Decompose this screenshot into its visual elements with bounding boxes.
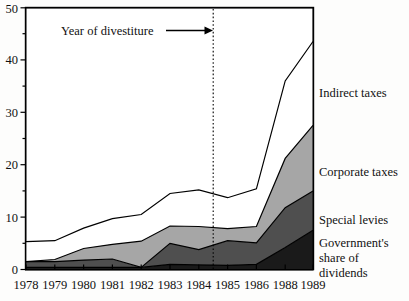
x-tick-label-1989: 1989 — [301, 278, 326, 292]
x-tick-label-1988: 1988 — [273, 278, 298, 292]
x-tick-label-1983: 1983 — [158, 278, 183, 292]
chart-container: 0 10 20 30 40 50 1978 1979 1980 1981 198… — [0, 0, 409, 301]
x-tick-label-1981: 1981 — [100, 278, 125, 292]
x-tick-label-1979: 1979 — [42, 278, 67, 292]
x-tick-label-1978: 1978 — [14, 278, 39, 292]
series-label-dividends-line1: Government's — [319, 236, 389, 250]
x-tick-label-1986: 1986 — [244, 278, 269, 292]
area-chart-svg: 0 10 20 30 40 50 1978 1979 1980 1981 198… — [0, 0, 409, 301]
series-label-indirect-taxes: Indirect taxes — [319, 86, 387, 100]
y-tick-label-0: 0 — [12, 263, 18, 277]
x-tick-label-1982: 1982 — [129, 278, 154, 292]
y-tick-label-40: 40 — [6, 53, 19, 67]
y-tick-label-10: 10 — [6, 211, 19, 225]
x-tick-label-1984: 1984 — [186, 278, 212, 292]
y-tick-label-30: 30 — [6, 106, 19, 120]
x-tick-label-1980: 1980 — [71, 278, 96, 292]
series-label-dividends-line3: dividends — [319, 266, 368, 280]
divestiture-annotation-label: Year of divestiture — [61, 24, 154, 38]
y-tick-label-20: 20 — [6, 158, 19, 172]
y-tick-label-50: 50 — [6, 2, 19, 16]
series-label-dividends-line2: share of — [319, 251, 360, 265]
series-label-special-levies: Special levies — [319, 213, 388, 227]
series-label-corporate-taxes: Corporate taxes — [319, 165, 398, 179]
x-tick-label-1985: 1985 — [215, 278, 240, 292]
